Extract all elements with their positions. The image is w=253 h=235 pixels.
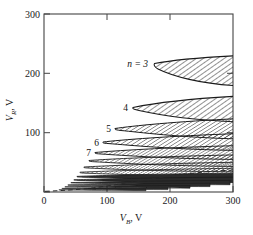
ytick-label-300: 300	[25, 9, 40, 20]
ytick-label-100: 100	[25, 127, 40, 138]
stability-diagram-figure: 300 200 100 0 100 200 300 VB, V VR, V	[0, 0, 253, 235]
annotation-n5: 5	[106, 124, 111, 134]
plot-svg: 300 200 100 0 100 200 300 VB, V VR, V	[0, 0, 253, 235]
xaxis-unit: , V	[130, 212, 143, 223]
annotation-n7: 7	[86, 148, 91, 158]
ytick-label-200: 200	[25, 68, 40, 79]
yaxis-unit: , V	[4, 98, 15, 111]
annotation-n3: n = 3	[127, 59, 148, 69]
annotation-n6: 6	[94, 138, 99, 148]
xtick-label-200: 200	[163, 195, 178, 206]
annotation-n4: 4	[123, 103, 128, 113]
xtick-label-0: 0	[42, 195, 47, 206]
xtick-label-100: 100	[100, 195, 115, 206]
xtick-label-300: 300	[226, 195, 241, 206]
